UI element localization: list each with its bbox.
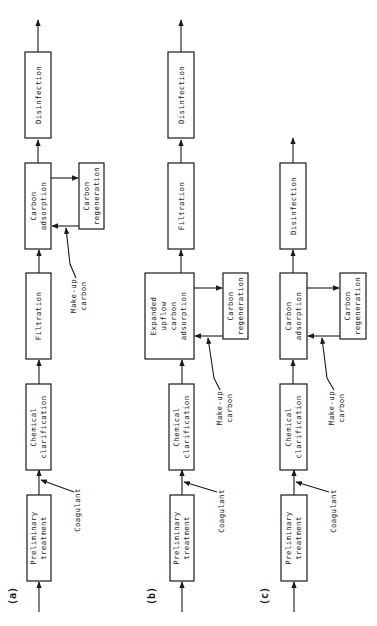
svg-text:Expanded: Expanded [149,297,158,336]
svg-text:adsorption: adsorption [294,292,303,341]
svg-text:treatment: treatment [182,516,191,560]
svg-text:Preliminary: Preliminary [284,511,293,564]
svg-text:Carbon: Carbon [29,191,38,220]
panel-a: (a) Preliminary treatment Coagulant Chem… [7,20,104,612]
svg-text:Carbon: Carbon [82,181,91,210]
svg-text:Make-up: Make-up [69,279,78,313]
panel-label-c: (c) [259,587,270,605]
svg-text:clarification: clarification [182,395,191,458]
svg-text:Preliminary: Preliminary [29,511,38,564]
svg-text:carbon: carbon [79,281,88,310]
svg-text:carbon: carbon [337,393,346,422]
svg-text:Disinfection: Disinfection [289,177,298,235]
coagulant-label-a: Coagulant [73,488,82,532]
coagulant-label-c: Coagulant [329,489,338,533]
svg-text:Carbon: Carbon [226,291,235,320]
svg-text:regeneration: regeneration [353,277,362,335]
svg-text:clarification: clarification [39,395,48,458]
svg-text:upflow: upflow [159,301,168,330]
panel-label-b: (b) [146,587,157,605]
svg-text:Filtration: Filtration [34,292,43,341]
svg-text:adsorption: adsorption [179,292,188,341]
treatment-flow-diagram: (a) Preliminary treatment Coagulant Chem… [0,0,377,626]
svg-text:carbon: carbon [169,301,178,330]
svg-text:Filtration: Filtration [177,182,186,231]
svg-text:regeneration: regeneration [92,167,101,225]
svg-text:Chemical: Chemical [284,408,293,447]
svg-text:Disinfection: Disinfection [177,66,186,124]
svg-text:clarification: clarification [294,395,303,458]
svg-text:Chemical: Chemical [172,408,181,447]
svg-text:Chemical: Chemical [29,408,38,447]
svg-text:adsorption: adsorption [39,182,48,231]
panel-c: (c) Preliminary treatment Coagulant Chem… [259,138,366,612]
svg-text:Preliminary: Preliminary [172,511,181,564]
panel-label-a: (a) [7,587,18,605]
svg-text:treatment: treatment [294,516,303,560]
svg-text:regeneration: regeneration [236,277,245,335]
svg-text:Disinfection: Disinfection [34,66,43,124]
coagulant-label-b: Coagulant [217,489,226,533]
panel-b: (b) Preliminary treatment Coagulant Chem… [145,20,248,612]
svg-text:Make-up: Make-up [327,391,336,425]
svg-text:carbon: carbon [225,393,234,422]
svg-text:Carbon: Carbon [343,291,352,320]
svg-text:treatment: treatment [39,516,48,560]
svg-text:Carbon: Carbon [284,301,293,330]
svg-text:Make-up: Make-up [215,391,224,425]
